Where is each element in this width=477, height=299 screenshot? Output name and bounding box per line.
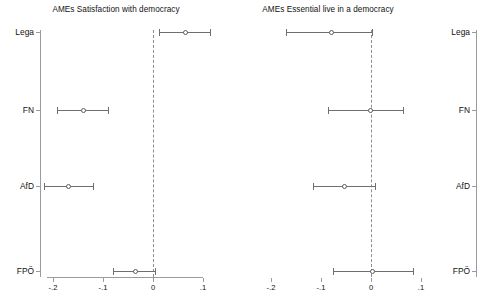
ci-cap-lower xyxy=(44,183,45,190)
ci-cap-lower xyxy=(333,268,334,275)
x-axis-tick xyxy=(203,278,204,282)
y-axis-tick xyxy=(472,32,476,33)
ci-cap-lower xyxy=(286,29,287,36)
ci-cap-upper xyxy=(403,107,404,114)
y-axis-label-lega: Lega xyxy=(434,27,470,37)
estimate-marker xyxy=(370,269,375,274)
x-axis-tick xyxy=(153,278,154,282)
y-axis-label-fp: FPÖ xyxy=(0,266,34,276)
y-axis-tick xyxy=(36,110,40,111)
x-axis-tick xyxy=(53,278,54,282)
x-axis-tick-label: -.2 xyxy=(49,283,58,292)
x-axis-tick-label: -.1 xyxy=(317,283,326,292)
zero-reference-line xyxy=(371,30,372,277)
zero-reference-line xyxy=(153,30,154,277)
x-axis-tick xyxy=(421,278,422,282)
x-axis-tick-label: 0 xyxy=(151,283,155,292)
ci-cap-upper xyxy=(413,268,414,275)
estimate-marker xyxy=(133,269,138,274)
ci-cap-upper xyxy=(108,107,109,114)
estimate-marker xyxy=(66,184,71,189)
ci-cap-upper xyxy=(155,268,156,275)
y-axis-tick xyxy=(472,271,476,272)
ci-cap-upper xyxy=(375,183,376,190)
confidence-interval-bar xyxy=(328,110,403,111)
x-axis-tick-label: -.1 xyxy=(99,283,108,292)
ci-cap-lower xyxy=(313,183,314,190)
y-axis-tick xyxy=(472,186,476,187)
y-axis-label-afd: AfD xyxy=(0,181,34,191)
estimate-marker xyxy=(329,30,334,35)
panel-essential-live-in-a-democracy: AMEs Essential live in a democracy LegaF… xyxy=(218,0,436,299)
ci-cap-upper xyxy=(210,29,211,36)
estimate-marker xyxy=(183,30,188,35)
y-axis-label-fn: FN xyxy=(434,105,470,115)
estimate-marker xyxy=(342,184,347,189)
y-axis-label-afd: AfD xyxy=(434,181,470,191)
plot-area-left: LegaFNAfDFPÖ-.2-.10.1 xyxy=(0,0,218,299)
ci-cap-upper xyxy=(372,29,373,36)
y-axis-tick xyxy=(472,110,476,111)
y-axis-tick xyxy=(36,32,40,33)
y-axis-label-fp: FPÖ xyxy=(434,266,470,276)
x-axis-tick-label: .1 xyxy=(418,283,424,292)
ci-cap-lower xyxy=(57,107,58,114)
x-axis-line xyxy=(47,277,203,278)
y-axis-line xyxy=(40,30,41,277)
plot-area-right: LegaFNAfDFPÖ-.2-.10.1 xyxy=(218,0,436,299)
x-axis-tick xyxy=(103,278,104,282)
ci-cap-lower xyxy=(159,29,160,36)
panel-satisfaction-with-democracy: AMEs Satisfaction with democracy LegaFNA… xyxy=(0,0,218,299)
y-axis-tick xyxy=(36,186,40,187)
x-axis-tick xyxy=(321,278,322,282)
x-axis-tick-label: 0 xyxy=(369,283,373,292)
x-axis-tick xyxy=(271,278,272,282)
ci-cap-upper xyxy=(93,183,94,190)
x-axis-tick xyxy=(371,278,372,282)
y-axis-label-fn: FN xyxy=(0,105,34,115)
ci-cap-lower xyxy=(328,107,329,114)
y-axis-label-lega: Lega xyxy=(0,27,34,37)
x-axis-tick-label: .1 xyxy=(200,283,206,292)
estimate-marker xyxy=(368,108,373,113)
ci-cap-lower xyxy=(113,268,114,275)
estimate-marker xyxy=(81,108,86,113)
y-axis-tick xyxy=(36,271,40,272)
x-axis-tick-label: -.2 xyxy=(267,283,276,292)
